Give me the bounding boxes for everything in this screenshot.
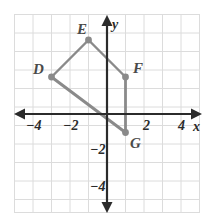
vertex-label-e: E — [77, 22, 87, 37]
x-tick-label-pos4: 4 — [178, 119, 185, 133]
x-axis-label: x — [193, 120, 200, 134]
vertex-e-marker — [85, 37, 92, 44]
y-axis-arrow-down — [102, 202, 113, 213]
x-tick-label-neg4: −4 — [26, 119, 41, 133]
vertex-d-marker — [48, 74, 55, 81]
x-axis-arrow-right — [191, 109, 202, 120]
y-axis-arrow-up — [102, 15, 113, 26]
axes — [20, 22, 196, 206]
y-tick-label-neg2: −2 — [90, 143, 105, 157]
coordinate-plane-figure: D E F G −4 −2 2 4 −2 −4 x y — [0, 0, 217, 222]
vertex-label-d: D — [33, 62, 44, 77]
y-tick-label-neg4: −4 — [90, 180, 105, 194]
x-tick-label-pos2: 2 — [143, 119, 150, 133]
vertex-label-g: G — [130, 136, 141, 151]
vertex-g-marker — [122, 129, 129, 136]
x-axis-arrow-left — [14, 109, 25, 120]
vertex-label-f: F — [133, 61, 143, 76]
y-axis-label: y — [112, 18, 118, 32]
plot-canvas — [0, 0, 217, 222]
x-tick-label-neg2: −2 — [63, 119, 78, 133]
vertex-f-marker — [122, 74, 129, 81]
